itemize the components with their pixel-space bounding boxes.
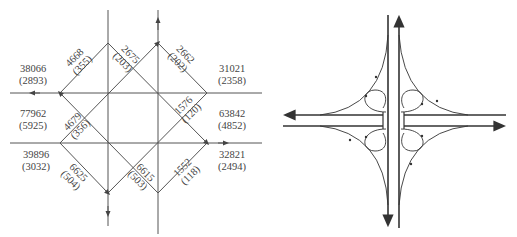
- direction-marker: [365, 136, 367, 138]
- direction-marker: [421, 103, 423, 105]
- label-se-sub: (2494): [218, 161, 246, 173]
- outer-ramp-sw: [320, 126, 388, 205]
- label-ne-value: 31021: [219, 63, 245, 74]
- outer-ramp-ne: [399, 35, 468, 115]
- direction-marker: [421, 135, 423, 137]
- arrow-merge-icon: [203, 139, 207, 143]
- arrow-merge-icon: [154, 43, 158, 47]
- label-sw-sub: (3032): [22, 161, 50, 173]
- arrow-merge-icon: [104, 189, 108, 193]
- outer-ramp-nw: [320, 35, 388, 115]
- cloverleaf-diagram: [283, 15, 506, 228]
- label-se-value: 32821: [219, 149, 245, 160]
- label-e-value: 63842: [219, 108, 245, 119]
- direction-marker: [375, 76, 377, 78]
- label-w-value: 77962: [20, 108, 46, 119]
- direction-marker: [410, 163, 412, 165]
- outer-ramp-se: [399, 126, 468, 205]
- direction-marker: [349, 139, 351, 141]
- direction-marker: [436, 100, 438, 102]
- interchange-figure: 38066 (2893) 31021 (2358) 77962 (5925) 6…: [0, 0, 517, 237]
- label-sw-value: 39896: [23, 149, 49, 160]
- label-ne-sub: (2358): [218, 75, 246, 87]
- label-w-sub: (5925): [19, 120, 47, 132]
- label-nw-sub: (2893): [19, 75, 47, 87]
- ramp-labels: 4668 (355) 2675 (203) 2662 (202) 1576 (1…: [58, 42, 204, 193]
- arrow-merge-icon: [60, 93, 64, 97]
- direction-marker: [365, 95, 367, 97]
- approach-labels: 38066 (2893) 31021 (2358) 77962 (5925) 6…: [19, 63, 246, 173]
- label-nw-value: 38066: [20, 63, 46, 74]
- label-e-sub: (4852): [218, 120, 246, 132]
